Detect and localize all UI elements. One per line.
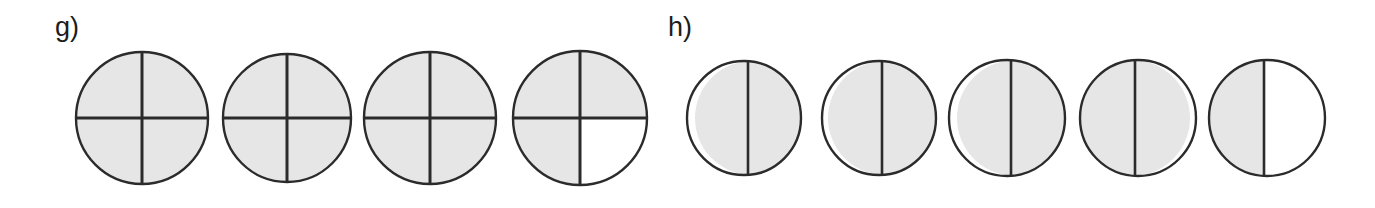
h-circle-1[interactable] [687,60,801,176]
g-circle-3[interactable] [363,51,497,185]
h-circle-4-half-left [1080,60,1135,176]
h-circle-4[interactable] [1080,59,1196,177]
h-circle-2[interactable] [822,60,936,176]
circle-diagram-layer [0,0,1375,208]
panel-g [75,50,648,186]
h-circle-3[interactable] [949,59,1065,177]
h-circle-1-half-right [748,61,801,175]
h-circle-5[interactable] [1209,59,1325,177]
g-circle-4[interactable] [512,50,648,186]
h-circle-2-half-left [828,61,882,175]
h-circle-2-half-right [882,61,936,175]
h-circle-5-half-right [1264,60,1319,176]
panel-h [687,59,1325,177]
figure-root: g) h) [0,0,1375,208]
g-circle-2[interactable] [222,53,352,183]
h-circle-5-half-left [1209,60,1264,176]
h-circle-4-half-right [1135,60,1190,176]
h-circle-3-half-right [1011,60,1065,176]
g-circle-1[interactable] [75,51,209,185]
